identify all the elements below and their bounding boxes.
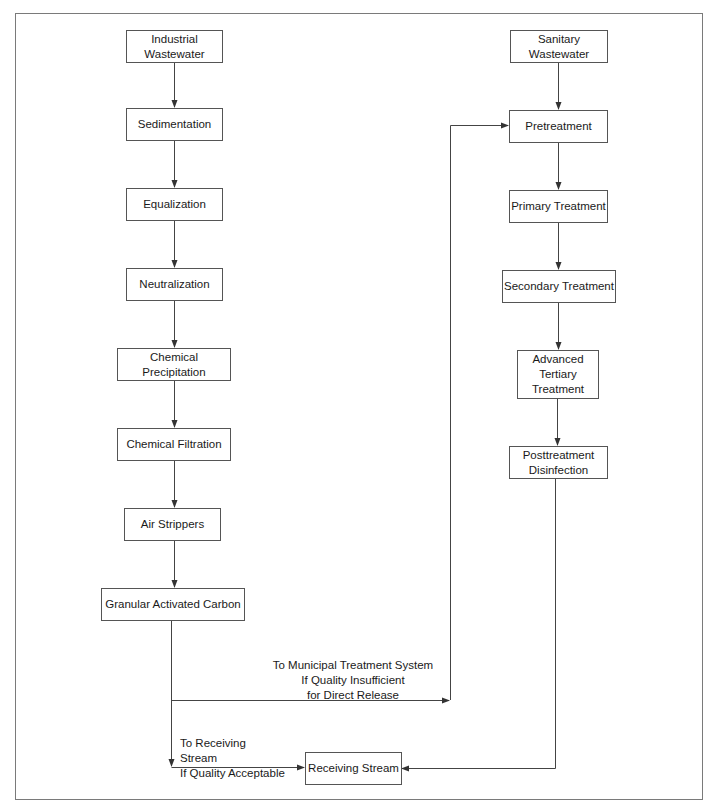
node-industrial-wastewater: Industrial Wastewater	[126, 30, 223, 63]
node-chemical-precipitation: Chemical Precipitation	[117, 348, 231, 381]
node-receiving-stream: Receiving Stream	[305, 752, 402, 785]
node-air-strippers: Air Strippers	[124, 508, 221, 541]
edge-label-to-municipal: To Municipal Treatment System If Quality…	[268, 658, 438, 703]
node-primary-treatment: Primary Treatment	[509, 190, 608, 223]
node-chemical-filtration: Chemical Filtration	[117, 428, 231, 461]
node-pretreatment: Pretreatment	[509, 110, 608, 143]
node-secondary-treatment: Secondary Treatment	[502, 270, 616, 303]
node-sanitary-wastewater: Sanitary Wastewater	[510, 30, 608, 63]
node-neutralization: Neutralization	[126, 268, 223, 301]
node-sedimentation: Sedimentation	[126, 108, 223, 141]
edge-label-to-receiving: To Receiving Stream If Quality Acceptabl…	[180, 736, 286, 781]
node-granular-activated-carbon: Granular Activated Carbon	[101, 588, 245, 621]
node-advanced-tertiary-treatment: Advanced Tertiary Treatment	[517, 350, 599, 399]
node-equalization: Equalization	[126, 188, 223, 221]
node-posttreatment-disinfection: Posttreatment Disinfection	[509, 446, 608, 479]
